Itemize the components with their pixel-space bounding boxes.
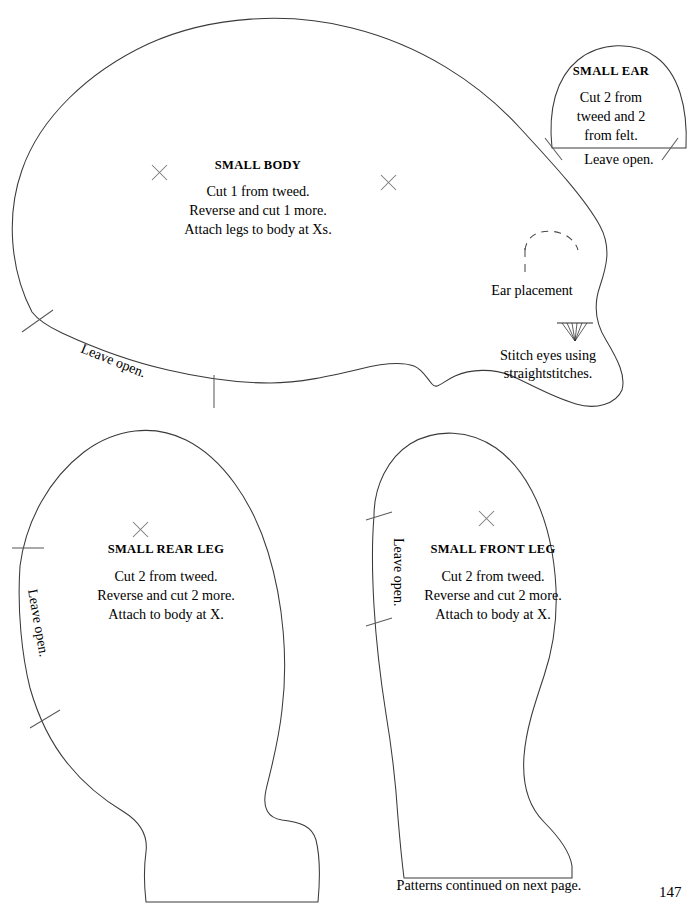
ear-tick-right [662, 138, 678, 160]
small-rear-leg-piece: Leave open. [12, 430, 319, 902]
small-front-leg-instruction-2: Reverse and cut 2 more. [424, 586, 562, 606]
small-front-leg-title: SMALL FRONT LEG [430, 542, 555, 557]
stitch-eyes-label-line1: Stitch eyes using [500, 346, 596, 366]
body-tick-left [22, 310, 53, 332]
rear-leg-x-mark [133, 522, 148, 537]
small-body-instruction-2: Reverse and cut 1 more. [189, 201, 327, 221]
small-ear-title: SMALL EAR [573, 64, 649, 79]
small-body-leave-open: Leave open. [79, 341, 148, 381]
small-front-leg-piece: Leave open. [366, 433, 572, 878]
small-front-leg-instruction-3: Attach to body at X. [435, 605, 550, 625]
small-rear-leg-outline [19, 430, 319, 902]
small-body-instruction-1: Cut 1 from tweed. [206, 182, 309, 202]
small-body-title: SMALL BODY [215, 158, 302, 173]
small-rear-leg-instruction-2: Reverse and cut 2 more. [97, 586, 235, 606]
pattern-page: Leave open. Leave open. [0, 0, 694, 905]
small-rear-leg-leave-open: Leave open. [25, 588, 52, 658]
ear-placement-label: Ear placement [491, 281, 573, 301]
small-body-instruction-3: Attach legs to body at Xs. [184, 220, 331, 240]
front-leg-tick-bottom [366, 618, 392, 626]
small-rear-leg-instruction-3: Attach to body at X. [108, 605, 223, 625]
small-rear-leg-title: SMALL REAR LEG [108, 542, 225, 557]
footer-note: Patterns continued on next page. [397, 877, 582, 894]
front-leg-x-mark [479, 511, 494, 526]
ear-placement-arc [525, 231, 578, 250]
stitch-eyes-label-line2: straightstitches. [504, 364, 593, 384]
ear-tick-left [545, 138, 562, 160]
small-front-leg-instruction-1: Cut 2 from tweed. [441, 567, 544, 587]
small-ear-instruction-3: from felt. [584, 126, 638, 146]
small-ear-instruction-2: tweed and 2 [577, 107, 646, 127]
body-x-mark-left [152, 165, 167, 180]
small-front-leg-outline [373, 433, 573, 878]
small-ear-leave-open: Leave open. [584, 150, 653, 170]
rear-leg-tick-bottom [30, 710, 60, 728]
small-ear-instruction-1: Cut 2 from [580, 88, 642, 108]
body-x-mark-right [381, 175, 396, 190]
eye-stitch-fan [562, 323, 587, 341]
page-number: 147 [659, 884, 682, 901]
small-rear-leg-instruction-1: Cut 2 from tweed. [114, 567, 217, 587]
small-front-leg-leave-open: Leave open. [391, 538, 406, 606]
front-leg-tick-top [366, 512, 392, 520]
